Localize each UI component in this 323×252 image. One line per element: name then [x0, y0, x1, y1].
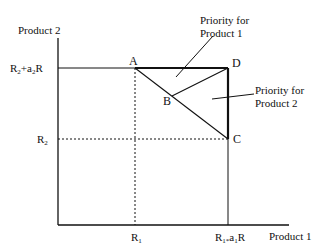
tick-r2-plus-a2r: R2+a2R	[10, 62, 43, 79]
x-axis-label: Product 1	[269, 230, 311, 243]
priority-product-1-annotation: Priority for Product 1	[200, 14, 249, 40]
tick-r1-a1r: R1*a1R	[215, 231, 245, 248]
point-c-label: C	[233, 133, 241, 146]
point-d-label: D	[232, 57, 241, 70]
pointer-priority-2	[212, 94, 254, 99]
point-a-label: A	[129, 55, 138, 68]
priority-diagram	[0, 0, 323, 252]
priority-product-2-annotation: Priority for Product 2	[255, 84, 304, 110]
pointer-priority-1	[176, 36, 213, 77]
y-axis-label: Product 2	[18, 24, 60, 37]
diagonal-a-c	[135, 68, 228, 139]
point-b-label: B	[163, 95, 171, 108]
tick-r1: R1	[131, 231, 142, 248]
tick-r2: R2	[37, 133, 48, 150]
